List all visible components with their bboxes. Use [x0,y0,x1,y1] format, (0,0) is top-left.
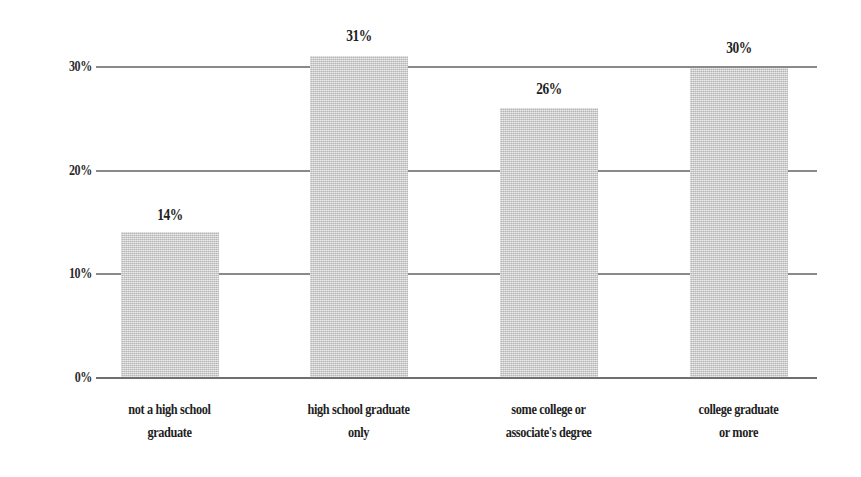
bar-not-a-high-school-graduate[interactable] [121,232,219,377]
bar-chart: 30% 20% 10% 0% 14% 31% 26% 30% not a hig… [0,0,861,477]
category-label-line-1: high school graduate [270,398,446,421]
bar-value-label-2: 31% [304,27,413,45]
y-tick-label-10: 10% [32,266,92,282]
category-label-some-college-or-associates-degree: some college or associate's degree [441,398,656,444]
y-tick-label-0: 0% [32,370,92,386]
y-tick-label-20: 20% [32,163,92,179]
y-tick-label-30: 30% [32,59,92,75]
category-label-line-1: not a high school [81,398,257,421]
bar-value-label-1: 14% [115,206,224,224]
category-label-high-school-graduate-only: high school graduate only [251,398,466,444]
bar-value-label-3: 26% [494,80,603,98]
category-label-line-1: college graduate [650,398,826,421]
axis-baseline-0 [96,377,817,379]
bar-some-college-or-associates-degree[interactable] [500,108,598,378]
category-label-college-graduate-or-more: college graduate or more [631,398,846,444]
category-label-line-2: only [270,421,446,444]
category-label-line-2: or more [650,421,826,444]
category-label-line-2: graduate [81,421,257,444]
bar-value-label-4: 30% [684,39,793,57]
category-label-line-1: some college or [460,398,636,421]
category-label-line-2: associate's degree [460,421,636,444]
bar-high-school-graduate-only[interactable] [310,56,408,377]
category-label-not-a-high-school-graduate: not a high school graduate [62,398,277,444]
bar-college-graduate-or-more[interactable] [690,68,788,377]
